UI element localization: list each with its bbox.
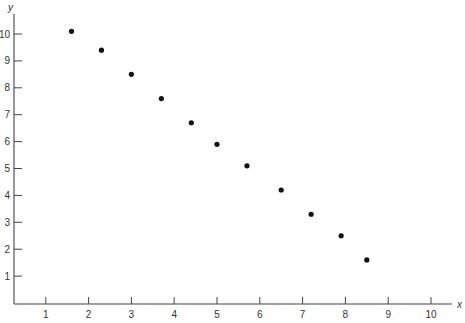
y-axis-label: y [7,2,14,13]
x-axis: x 12345678910 [14,297,463,320]
y-tick-label: 3 [4,217,10,228]
data-point [244,163,249,168]
x-tick-label: 2 [86,309,92,320]
data-point [69,29,74,34]
x-tick-label: 10 [425,309,437,320]
data-point [309,212,314,217]
y-tick-label: 5 [4,163,10,174]
data-point [129,72,134,77]
y-tick-label: 6 [4,136,10,147]
x-tick-label: 6 [257,309,263,320]
data-points [69,29,370,263]
y-tick-label: 2 [4,244,10,255]
x-tick-label: 5 [214,309,220,320]
y-tick-label: 1 [4,271,10,282]
y-tick-label: 10 [0,29,10,40]
y-tick-label: 4 [4,190,10,201]
scatter-chart: y 12345678910 x 12345678910 [0,0,465,323]
data-point [279,187,284,192]
data-point [159,96,164,101]
x-tick-label: 1 [43,309,49,320]
y-tick-label: 8 [4,82,10,93]
x-tick-label: 9 [385,309,391,320]
x-tick-label: 3 [129,309,135,320]
y-ticks: 12345678910 [0,29,22,282]
x-ticks: 12345678910 [43,297,437,320]
x-tick-label: 7 [300,309,306,320]
data-point [214,142,219,147]
data-point [364,257,369,262]
y-tick-label: 9 [4,55,10,66]
x-axis-label: x [456,299,463,310]
x-tick-label: 4 [171,309,177,320]
y-axis: y 12345678910 [0,2,22,304]
x-tick-label: 8 [343,309,349,320]
y-tick-label: 7 [4,109,10,120]
data-point [99,48,104,53]
data-point [339,233,344,238]
data-point [189,120,194,125]
